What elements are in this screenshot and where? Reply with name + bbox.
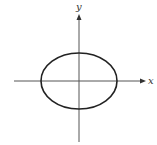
y-axis-label: y: [75, 1, 82, 12]
ellipse-diagram: x y: [0, 0, 157, 145]
x-axis-arrowhead: [140, 79, 146, 84]
y-axis-arrowhead: [77, 14, 82, 20]
x-axis-label: x: [148, 75, 154, 86]
